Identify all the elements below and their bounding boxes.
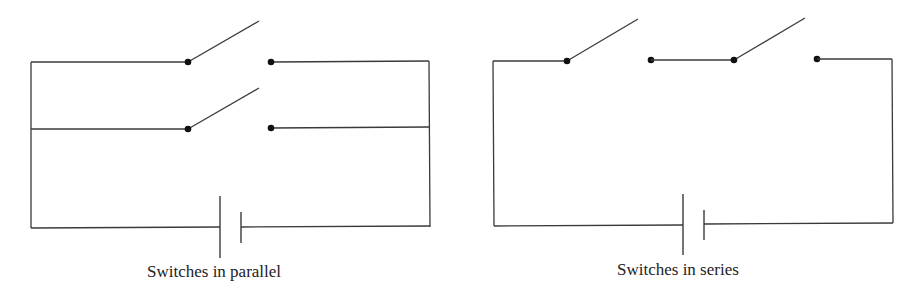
switch-2-pivot xyxy=(185,126,192,133)
wire xyxy=(493,61,494,226)
wire xyxy=(31,227,220,228)
switch-1-contact xyxy=(268,59,275,66)
caption-series: Switches in series xyxy=(617,260,739,280)
switch-1-arm xyxy=(567,19,638,61)
series-circuit xyxy=(493,18,893,255)
switch-1-arm xyxy=(188,21,259,62)
switch-1-pivot xyxy=(564,58,571,65)
wire xyxy=(494,225,683,226)
wire xyxy=(271,61,429,62)
switch-1-pivot xyxy=(185,59,192,66)
switch-2-arm xyxy=(734,18,805,60)
parallel-circuit xyxy=(31,21,430,258)
switch-2-arm xyxy=(188,88,259,129)
wire xyxy=(704,223,893,224)
switch-2-contact xyxy=(268,125,275,132)
wire xyxy=(429,61,430,227)
wire xyxy=(241,226,430,227)
switch-2-pivot xyxy=(731,57,738,64)
wire xyxy=(892,59,893,223)
caption-parallel: Switches in parallel xyxy=(147,262,281,282)
wire xyxy=(271,127,429,128)
circuit-diagrams xyxy=(0,0,923,301)
